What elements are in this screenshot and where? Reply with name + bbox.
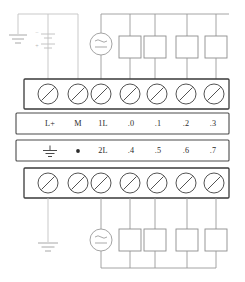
- terminal-label-l-plus: L+: [45, 119, 55, 128]
- earth-ground-icon: [38, 243, 58, 251]
- screw-terminal-icon[interactable]: [68, 84, 88, 104]
- terminal-label-i0-1: .1: [155, 119, 162, 128]
- ac-dc-source-icon: [90, 33, 112, 55]
- screw-terminal-icon[interactable]: [38, 84, 58, 104]
- terminal-label-q0-4: .4: [128, 146, 135, 155]
- screw-terminal-icon[interactable]: [204, 84, 224, 104]
- earth-ground-icon: [9, 35, 27, 43]
- terminal-label-1l: 1L: [98, 119, 108, 128]
- screw-terminal-icon[interactable]: [91, 84, 111, 104]
- load-box-icon: [176, 198, 198, 268]
- battery-icon: − +: [35, 29, 55, 49]
- load-box-icon: [144, 198, 166, 268]
- load-box-icon: [205, 14, 227, 80]
- screw-terminal-icon[interactable]: [176, 84, 196, 104]
- wiring-diagram-canvas: − +: [0, 0, 245, 282]
- top-left-supply-group: − +: [9, 14, 78, 80]
- terminal-label-i0-3: .3: [210, 119, 217, 128]
- load-box-icon: [205, 198, 227, 268]
- top-load-circuit-group: [90, 14, 229, 80]
- load-box-icon: [119, 198, 141, 268]
- terminal-label-m: M: [74, 119, 82, 128]
- battery-minus-label: −: [35, 29, 39, 35]
- lower-terminal-strip[interactable]: [24, 168, 229, 198]
- ac-dc-source-icon: [90, 229, 112, 251]
- common-dot-marker: [76, 149, 80, 153]
- screw-terminal-icon[interactable]: [147, 84, 167, 104]
- terminal-label-i0-2: .2: [183, 119, 190, 128]
- wiring-diagram: − +: [0, 0, 245, 282]
- battery-plus-label: +: [35, 43, 39, 49]
- load-box-icon: [119, 14, 141, 80]
- terminal-label-q0-6: .6: [183, 146, 190, 155]
- screw-terminal-icon[interactable]: [120, 84, 140, 104]
- load-box-icon: [176, 14, 198, 80]
- screw-terminal-icon[interactable]: [38, 173, 58, 193]
- screw-terminal-icon[interactable]: [204, 173, 224, 193]
- lower-label-strip: 2L .4 .5 .6 .7: [16, 140, 229, 161]
- screw-terminal-icon[interactable]: [120, 173, 140, 193]
- bottom-load-circuit-group: [90, 198, 227, 268]
- screw-terminal-icon[interactable]: [91, 173, 111, 193]
- terminal-label-q0-5: .5: [155, 146, 162, 155]
- upper-terminal-strip[interactable]: [24, 79, 229, 109]
- screw-terminal-icon[interactable]: [68, 173, 88, 193]
- terminal-label-2l: 2L: [98, 146, 108, 155]
- terminal-label-q0-7: .7: [210, 146, 217, 155]
- load-box-icon: [144, 14, 166, 80]
- terminal-label-i0-0: .0: [128, 119, 135, 128]
- bottom-ground-group: [38, 198, 58, 251]
- screw-terminal-icon[interactable]: [176, 173, 196, 193]
- screw-terminal-icon[interactable]: [147, 173, 167, 193]
- upper-label-strip: L+ M 1L .0 .1 .2 .3: [16, 113, 229, 134]
